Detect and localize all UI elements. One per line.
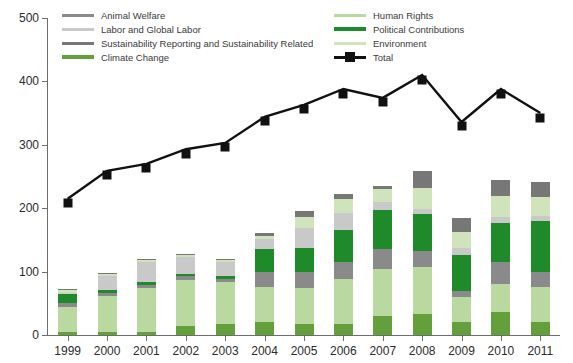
bar-2000 <box>98 273 117 335</box>
bar-segment-political_contributions <box>295 248 314 272</box>
bar-segment-climate_change <box>216 324 235 335</box>
x-axis-tick <box>225 335 226 341</box>
bar-2010 <box>491 180 510 335</box>
total-marker <box>221 143 230 152</box>
bar-segment-human_rights <box>413 267 432 314</box>
x-axis-tick-label: 2001 <box>133 344 160 358</box>
y-axis-tick <box>42 18 48 19</box>
y-axis-tick-label: 300 <box>19 138 39 152</box>
y-axis-tick <box>42 81 48 82</box>
x-axis-tick-label: 2002 <box>172 344 199 358</box>
bar-segment-political_contributions <box>334 230 353 262</box>
bar-segment-political_contributions <box>531 221 550 272</box>
bar-segment-human_rights <box>216 282 235 323</box>
bar-segment-labor <box>373 202 392 210</box>
bar-2005 <box>295 211 314 335</box>
bar-segment-labor <box>176 257 195 273</box>
x-axis-tick <box>343 335 344 341</box>
bar-segment-climate_change <box>413 314 432 335</box>
x-axis-tick <box>68 335 69 341</box>
bar-segment-climate_change <box>491 312 510 335</box>
bar-segment-human_rights <box>98 296 117 333</box>
bar-segment-environment <box>334 199 353 213</box>
bar-segment-animal_welfare <box>413 251 432 267</box>
bar-segment-political_contributions <box>452 255 471 291</box>
x-axis-tick <box>422 335 423 341</box>
total-marker <box>63 199 72 208</box>
bar-2011 <box>531 182 550 335</box>
bar-segment-human_rights <box>176 280 195 326</box>
bar-segment-labor <box>98 276 117 290</box>
bar-2004 <box>255 233 274 335</box>
x-axis-tick-label: 2011 <box>527 344 553 358</box>
total-marker <box>496 89 505 98</box>
bar-segment-labor <box>137 262 156 282</box>
bar-segment-human_rights <box>373 269 392 316</box>
bar-2003 <box>216 259 235 335</box>
x-axis-tick <box>462 335 463 341</box>
bar-segment-climate_change <box>255 322 274 335</box>
bar-segment-animal_welfare <box>373 249 392 269</box>
bar-2008 <box>413 171 432 335</box>
y-axis-tick-label: 100 <box>19 265 39 279</box>
bar-segment-sustainability <box>452 218 471 233</box>
bar-segment-climate_change <box>373 316 392 335</box>
plot-area: 0100200300400500 19992000200120022003200… <box>47 18 560 336</box>
bar-segment-animal_welfare <box>295 272 314 288</box>
x-axis-tick-label: 1999 <box>54 344 81 358</box>
bar-segment-human_rights <box>137 288 156 332</box>
bar-segment-environment <box>295 217 314 228</box>
bar-segment-political_contributions <box>58 294 77 303</box>
bar-segment-political_contributions <box>255 249 274 272</box>
bar-segment-animal_welfare <box>531 272 550 288</box>
x-axis-tick <box>265 335 266 341</box>
x-axis-tick-label: 2007 <box>369 344 396 358</box>
total-marker <box>260 117 269 126</box>
y-axis-tick <box>42 145 48 146</box>
bar-segment-environment <box>373 189 392 202</box>
bar-segment-human_rights <box>58 307 77 332</box>
x-axis-tick <box>540 335 541 341</box>
bar-segment-environment <box>531 197 550 216</box>
bar-segment-political_contributions <box>413 214 432 251</box>
x-axis-tick <box>186 335 187 341</box>
y-axis-tick-label: 0 <box>32 328 39 342</box>
legend-swatch-animal-welfare <box>62 14 94 17</box>
x-axis-tick-label: 2000 <box>94 344 121 358</box>
bar-2007 <box>373 186 392 335</box>
bar-1999 <box>58 289 77 335</box>
stacked-bar-chart: Animal Welfare Labor and Global Labor Su… <box>0 0 573 363</box>
y-axis-tick <box>42 335 48 336</box>
bar-segment-political_contributions <box>491 223 510 262</box>
x-axis-tick <box>383 335 384 341</box>
bar-segment-human_rights <box>531 287 550 322</box>
bar-segment-labor <box>295 228 314 248</box>
bar-segment-labor <box>255 239 274 249</box>
bar-segment-climate_change <box>176 326 195 335</box>
bar-segment-human_rights <box>491 284 510 313</box>
bar-segment-sustainability <box>531 182 550 197</box>
bar-segment-political_contributions <box>373 210 392 249</box>
total-marker <box>378 98 387 107</box>
y-axis-tick-label: 500 <box>19 11 39 25</box>
bar-2002 <box>176 254 195 335</box>
y-axis-tick <box>42 208 48 209</box>
x-axis-tick <box>304 335 305 341</box>
x-axis-tick-label: 2006 <box>330 344 357 358</box>
total-marker <box>536 113 545 122</box>
y-axis-tick-label: 400 <box>19 74 39 88</box>
bar-segment-climate_change <box>452 322 471 335</box>
total-marker <box>300 105 309 114</box>
bar-segment-labor <box>334 213 353 230</box>
bar-segment-climate_change <box>531 322 550 335</box>
bar-segment-climate_change <box>334 324 353 335</box>
x-axis-tick-label: 2005 <box>291 344 318 358</box>
bar-segment-human_rights <box>452 297 471 322</box>
total-marker <box>457 122 466 131</box>
total-marker <box>418 75 427 84</box>
y-axis-tick-label: 200 <box>19 201 39 215</box>
bar-2006 <box>334 194 353 335</box>
x-axis-tick-label: 2010 <box>488 344 515 358</box>
bar-segment-animal_welfare <box>491 262 510 284</box>
bar-segment-animal_welfare <box>255 272 274 288</box>
